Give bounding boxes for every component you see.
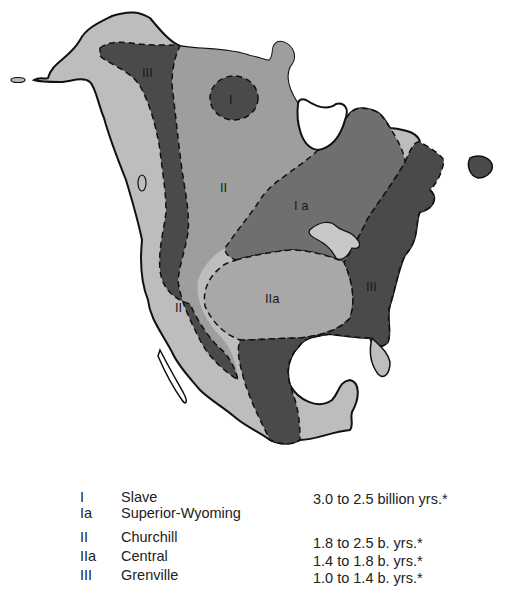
legend-age: 3.0 to 2.5 billion yrs.* bbox=[313, 491, 448, 507]
legend-age: 1.4 to 1.8 b. yrs.* bbox=[313, 553, 423, 569]
province-I bbox=[210, 76, 258, 120]
legend-name: Central bbox=[121, 548, 168, 564]
legend-age: 1.0 to 1.4 b. yrs.* bbox=[313, 570, 423, 586]
label-Ia: I a bbox=[294, 198, 309, 213]
legend-code: III bbox=[80, 567, 92, 583]
legend-name: Slave bbox=[121, 489, 157, 505]
label-IIa: IIa bbox=[265, 291, 280, 306]
legend-name: Churchill bbox=[121, 529, 177, 545]
legend-name: Superior-Wyoming bbox=[121, 505, 241, 521]
legend-code: II bbox=[80, 529, 88, 545]
newfoundland-island bbox=[468, 156, 492, 178]
label-II-north: II bbox=[220, 180, 227, 195]
aleutian-islet bbox=[11, 78, 25, 83]
legend-age: 1.8 to 2.5 b. yrs.* bbox=[313, 535, 423, 551]
geologic-province-map: I III II I a IIa II III bbox=[0, 0, 529, 470]
label-III-west: III bbox=[142, 65, 153, 80]
label-III-east: III bbox=[366, 279, 377, 294]
legend-name: Grenville bbox=[121, 567, 178, 583]
vancouver-islet bbox=[138, 175, 146, 191]
legend-code: IIa bbox=[80, 548, 96, 564]
legend-code: Ia bbox=[80, 505, 92, 521]
label-II-south: II bbox=[175, 300, 182, 315]
legend-code: I bbox=[80, 489, 84, 505]
label-I: I bbox=[229, 92, 233, 107]
